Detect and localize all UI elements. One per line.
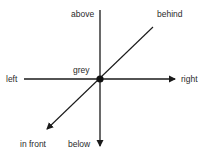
label-left: left <box>6 75 17 84</box>
label-above: above <box>71 10 94 19</box>
label-in-front: in front <box>20 140 46 149</box>
spatial-axes-diagram: above behind grey left right in front be… <box>0 0 214 152</box>
label-grey: grey <box>73 66 90 75</box>
label-below: below <box>68 140 90 149</box>
label-right: right <box>181 75 198 84</box>
origin-dot <box>96 75 103 82</box>
label-behind: behind <box>157 10 183 19</box>
